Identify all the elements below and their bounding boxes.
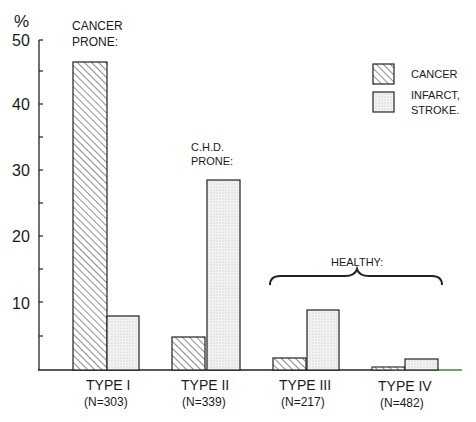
annotation-cancer-prone-line2: PRONE: [72, 35, 118, 49]
annotation-chd-prone-line1: C.H.D. [191, 141, 224, 153]
ytick-10: 10 [12, 295, 30, 312]
annotation-chd-prone-line2: PRONE: [191, 155, 233, 167]
xlabel-type-1: TYPE I [86, 377, 130, 393]
xlabel-type-2: TYPE II [181, 377, 229, 393]
bar-group-type-1 [73, 62, 139, 370]
legend-label-infarct-line2: STROKE. [411, 104, 459, 116]
bar-infarct-type-2 [207, 180, 240, 370]
healthy-brace [270, 269, 442, 285]
ytick-50: 50 [12, 32, 30, 49]
xlabel-n-type-3: (N=217) [281, 395, 325, 409]
bar-infarct-type-4 [405, 359, 438, 370]
xlabel-type-4: TYPE IV [378, 378, 432, 394]
legend-swatch-cancer [373, 64, 394, 84]
bar-infarct-type-1 [107, 316, 139, 370]
ytick-40: 40 [12, 96, 30, 113]
bar-cancer-type-4 [372, 367, 405, 370]
y-unit-label: % [14, 12, 29, 31]
legend: CANCER INFARCT, STROKE. [373, 64, 460, 116]
bar-group-type-2 [172, 180, 240, 370]
bar-chart: % 50 40 30 20 10 CANCER PRONE: C.H.D. PR… [0, 0, 476, 422]
bar-group-type-3 [273, 310, 339, 370]
ytick-20: 20 [12, 228, 30, 245]
y-axis: % 50 40 30 20 10 [12, 12, 43, 370]
bar-group-type-4 [372, 359, 438, 370]
ytick-30: 30 [12, 162, 30, 179]
bar-cancer-type-1 [73, 62, 107, 370]
bar-cancer-type-3 [273, 358, 306, 370]
bar-infarct-type-3 [307, 310, 339, 370]
annotation-cancer-prone-line1: CANCER [72, 19, 123, 33]
xlabel-n-type-1: (N=303) [84, 395, 128, 409]
xlabel-n-type-2: (N=339) [182, 395, 226, 409]
legend-label-cancer: CANCER [411, 68, 458, 80]
xlabel-type-3: TYPE III [279, 377, 331, 393]
x-category-labels: TYPE I (N=303) TYPE II (N=339) TYPE III … [84, 377, 432, 410]
legend-swatch-infarct [373, 92, 394, 112]
xlabel-n-type-4: (N=482) [380, 396, 424, 410]
legend-label-infarct-line1: INFARCT, [411, 89, 460, 101]
bar-cancer-type-2 [172, 337, 205, 370]
